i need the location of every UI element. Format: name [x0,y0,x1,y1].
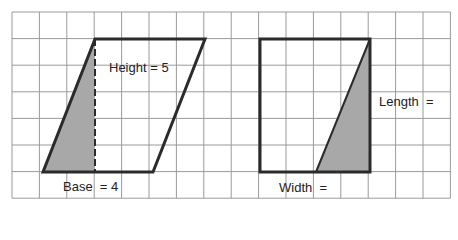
shapes [43,39,370,172]
length-label: Length = [379,95,434,108]
height-label: Height = 5 [109,61,169,74]
width-label: Width = [279,181,327,194]
base-label: Base = 4 [63,180,118,193]
